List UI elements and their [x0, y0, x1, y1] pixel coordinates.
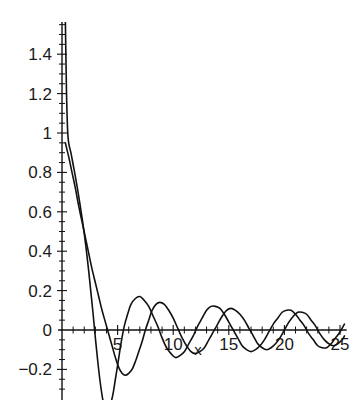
y-tick-label: −0.2 [18, 360, 52, 379]
x-tick-label: 25 [331, 335, 350, 354]
y-tick-label: 0.4 [28, 242, 52, 261]
plot-container: 510152025 −0.200.20.40.60.811.21.4 x [0, 0, 363, 419]
y-tick-label: 0 [43, 321, 52, 340]
curve-2 [65, 143, 344, 375]
x-axis-title: x [194, 341, 202, 358]
y-axis-tick-labels: −0.200.20.40.60.811.21.4 [18, 45, 52, 379]
x-axis-tick-labels: 510152025 [113, 335, 350, 354]
curve-1 [65, 19, 344, 411]
chart-canvas: 510152025 −0.200.20.40.60.811.21.4 x [0, 0, 363, 419]
y-tick-label: 0.2 [28, 282, 52, 301]
y-tick-label: 1.2 [28, 85, 52, 104]
y-tick-label: 0.6 [28, 203, 52, 222]
x-tick-label: 20 [275, 335, 294, 354]
y-tick-label: 1.4 [28, 45, 52, 64]
y-tick-label: 0.8 [28, 163, 52, 182]
x-axis-label-text: x [194, 341, 202, 358]
x-tick-label: 10 [164, 335, 183, 354]
x-tick-label: 15 [219, 335, 238, 354]
y-tick-label: 1 [43, 124, 52, 143]
data-curves [65, 19, 344, 411]
